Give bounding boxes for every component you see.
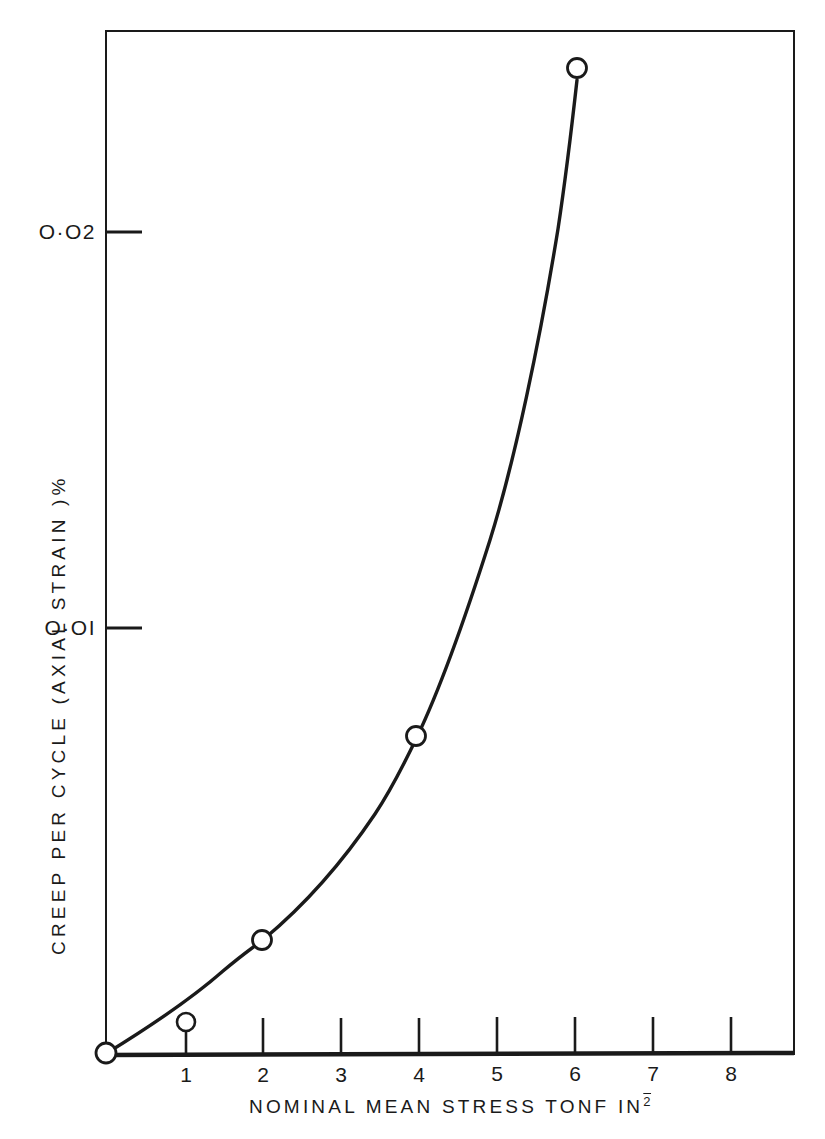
- x-tick-label-3: 3: [335, 1063, 347, 1087]
- x-tick-label-6: 6: [569, 1062, 581, 1086]
- x-axis-title-exponent: 2: [643, 1094, 651, 1109]
- figure-chart-creep-per-cycle: O·O2 O·OI 1 2 3 4 5 6 7 8 CREEP PER CYCL…: [0, 0, 825, 1139]
- x-axis-title-text: NOMINAL MEAN STRESS TONF IN: [249, 1096, 643, 1117]
- x-axis-title: NOMINAL MEAN STRESS TONF IN2: [249, 1094, 651, 1118]
- x-tick-label-1: 1: [180, 1063, 192, 1087]
- x-tick-label-5: 5: [491, 1062, 503, 1086]
- x-tick-label-8: 8: [725, 1062, 737, 1086]
- x-tick-label-2: 2: [257, 1063, 269, 1087]
- y-tick-label-0-02: O·O2: [10, 220, 96, 244]
- y-axis-title: CREEP PER CYCLE (AXIAL STRAIN )%: [48, 474, 70, 955]
- x-tick-label-7: 7: [647, 1062, 659, 1086]
- x-tick-label-4: 4: [413, 1063, 425, 1087]
- plot-frame: [105, 30, 795, 1055]
